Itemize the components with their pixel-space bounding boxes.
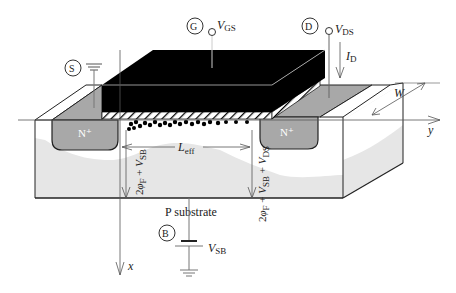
gate-oxide [102, 112, 272, 119]
svg-text:B: B [162, 228, 169, 239]
mosfet-diagram: N⁺ N⁺ y x 2φF + VSB 2φF + VSB + VDS [0, 0, 456, 293]
svg-text:D: D [305, 21, 312, 32]
svg-text:VSB: VSB [208, 241, 226, 256]
x-axis-label: x [127, 259, 134, 273]
svg-text:S: S [69, 63, 75, 74]
svg-text:W: W [394, 86, 405, 100]
svg-text:VDS: VDS [335, 22, 354, 37]
drain-n-plus-label: N⁺ [280, 126, 294, 138]
drain-current-label: ID [345, 49, 357, 64]
y-axis-label: y [427, 123, 434, 137]
substrate-label: P substrate [165, 205, 217, 219]
svg-text:G: G [190, 21, 197, 32]
source-n-plus-label: N⁺ [78, 127, 92, 139]
source-top-surface [35, 85, 102, 120]
svg-text:VGS: VGS [217, 18, 236, 33]
